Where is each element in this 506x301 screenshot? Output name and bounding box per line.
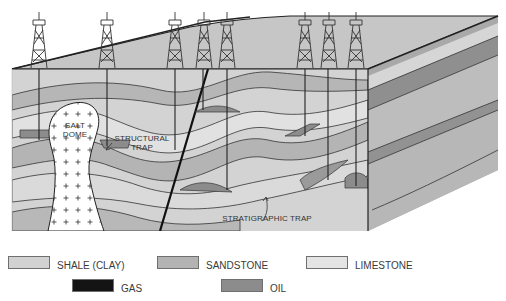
salt-dome-label: SALT DOME: [60, 121, 90, 139]
legend-item-shale: SHALE (CLAY): [8, 254, 125, 271]
shale-swatch: [8, 256, 50, 269]
limestone-swatch: [306, 256, 348, 269]
legend-label: OIL: [270, 283, 286, 294]
legend-label: SHALE (CLAY): [57, 260, 125, 271]
legend: SHALE (CLAY) SANDSTONE LIMESTONE GAS OIL: [0, 240, 506, 301]
structural-trap-label-line-2: TRAP: [111, 143, 173, 152]
structural-trap-label: STRUCTURAL TRAP: [111, 134, 173, 152]
salt-dome-label-line-1: SALT: [60, 121, 90, 130]
legend-label: SANDSTONE: [206, 260, 268, 271]
block-front-face: [12, 62, 368, 231]
gas-swatch: [72, 279, 114, 292]
salt-dome-label-line-2: DOME: [60, 130, 90, 139]
legend-item-sandstone: SANDSTONE: [157, 254, 268, 271]
legend-item-gas: GAS: [72, 277, 142, 294]
derrick-icon: [99, 12, 115, 68]
oil-swatch: [221, 279, 263, 292]
structural-trap-label-line-1: STRUCTURAL: [111, 134, 173, 143]
sandstone-swatch: [157, 256, 199, 269]
legend-label: GAS: [121, 283, 142, 294]
geologic-cross-section: SALT DOME STRUCTURAL TRAP STRATIGRAPHIC …: [0, 0, 506, 240]
cross-section-drawing: [0, 0, 506, 240]
legend-item-limestone: LIMESTONE: [306, 254, 413, 271]
derrick-icon: [31, 12, 47, 68]
legend-item-oil: OIL: [221, 277, 286, 294]
stratigraphic-trap-label: STRATIGRAPHIC TRAP: [212, 214, 322, 223]
legend-label: LIMESTONE: [355, 260, 413, 271]
